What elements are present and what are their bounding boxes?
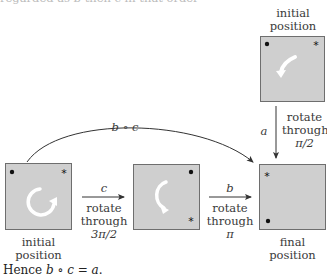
dot-marker-middle: [189, 170, 193, 174]
arrow-a-desc-line3: π/2: [282, 137, 327, 150]
initial-label-line2: position: [5, 249, 72, 262]
star-marker-final: *: [264, 170, 270, 183]
arrow-b-description: rotate through π: [204, 202, 256, 241]
conclusion-prefix: Hence: [3, 263, 46, 277]
half-rotation-arrow-icon: [157, 182, 166, 208]
conclusion-equation: b ∘ c = a: [46, 263, 99, 277]
arrow-b-label: b: [218, 182, 242, 195]
conclusion-suffix: .: [99, 263, 103, 277]
star-marker-middle: *: [188, 215, 194, 228]
dot-marker-initial: [10, 170, 14, 174]
arrow-b-desc-line3: π: [204, 228, 256, 241]
curved-arrow-label: b ∘ c: [100, 121, 150, 134]
arrow-c-desc-line3: 3π/2: [78, 228, 130, 241]
final-position-label: final position: [259, 236, 326, 262]
arrow-a-description: rotate through π/2: [282, 111, 327, 150]
arrow-c-description: rotate through 3π/2: [78, 202, 130, 241]
star-marker-initial: *: [61, 167, 67, 180]
star-marker-top: *: [313, 39, 319, 52]
initial-position-label: initial position: [5, 236, 72, 262]
conclusion-sentence: Hence b ∘ c = a.: [3, 264, 103, 277]
final-label-line2: position: [259, 249, 326, 262]
arrow-c-label: c: [92, 182, 116, 195]
dot-marker-top: [265, 42, 269, 46]
arrow-a-label: a: [258, 125, 270, 138]
three-quarter-rotation-arrow-icon: [28, 189, 54, 215]
small-rotation-arrow-icon: [281, 57, 295, 72]
dot-marker-final: [266, 219, 270, 223]
